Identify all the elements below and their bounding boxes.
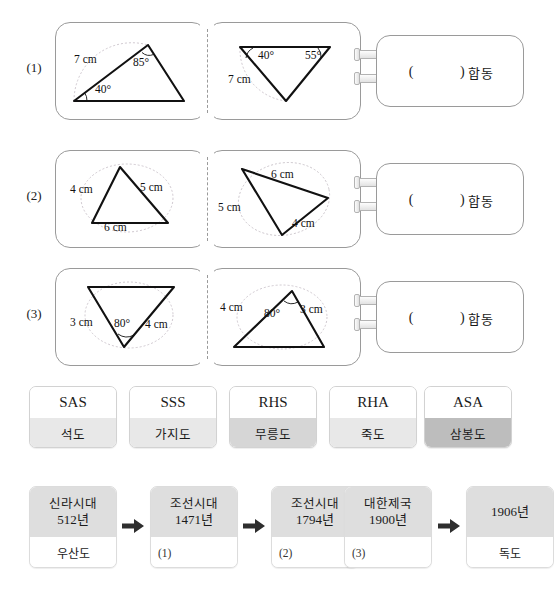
term-card-sas[interactable]: SAS 석도 <box>29 386 117 448</box>
fig2r-label-1: 5 cm <box>218 201 241 213</box>
timeline-year-1: 512년 <box>57 512 89 527</box>
problem-label-3: (3) <box>14 306 54 322</box>
timeline-year-2: 1471년 <box>175 512 213 527</box>
problem-row-1: (1) 7 cm 85° 40° <box>0 22 539 120</box>
answer-text-1: ( ) 합동 <box>377 36 525 108</box>
answer-paren-close-1: ) <box>460 64 465 80</box>
term-name-asa: 삼봉도 <box>425 418 511 448</box>
term-name-sas: 석도 <box>30 418 116 448</box>
fig2l-label-0: 4 cm <box>70 183 93 195</box>
answer-word-1: 합동 <box>468 63 493 82</box>
clasp-cap-bottom-left <box>354 200 360 213</box>
timeline-year-4: 1900년 <box>369 512 407 527</box>
term-code-rha: RHA <box>330 387 416 418</box>
fig2l-label-2: 6 cm <box>104 221 127 233</box>
fig3r-label-1: 80° <box>264 307 280 319</box>
timeline-header-4: 대한제국 1900년 <box>345 487 431 537</box>
term-name-sss: 가지도 <box>130 418 216 448</box>
figure-panel-right-1: 40° 55° 7 cm <box>207 22 361 120</box>
term-card-rhs[interactable]: RHS 무릉도 <box>229 386 317 448</box>
figure-panel-right-3: 4 cm 80° 3 cm <box>207 268 361 366</box>
timeline-era-2: 조선시대 <box>170 497 218 512</box>
timeline-card-2[interactable]: 조선시대 1471년 (1) <box>150 486 238 568</box>
answer-word-2: 합동 <box>468 191 493 210</box>
timeline-era-3: 조선시대 <box>291 497 339 512</box>
term-code-rhs: RHS <box>230 387 316 418</box>
fig2r-label-2: 4 cm <box>292 217 315 229</box>
fig2l-label-1: 5 cm <box>140 181 163 193</box>
timeline-card-5[interactable]: 1906년 독도 <box>466 486 554 568</box>
fig3l-label-1: 80° <box>114 317 130 329</box>
timeline-header-2: 조선시대 1471년 <box>151 487 237 537</box>
answer-paren-close-3: ) <box>460 310 465 326</box>
figure-panel-left-2: 4 cm 5 cm 6 cm <box>55 150 207 248</box>
timeline-header-5: 1906년 <box>467 487 553 537</box>
answer-text-3: ( ) 합동 <box>377 282 525 354</box>
fig1r-label-2: 7 cm <box>228 73 251 85</box>
term-card-asa[interactable]: ASA 삼봉도 <box>424 386 512 448</box>
term-code-asa: ASA <box>425 387 511 418</box>
fig3l-label-0: 3 cm <box>70 316 93 328</box>
triangle-figure-1-right: 40° 55° 7 cm <box>208 23 360 119</box>
fig3r-label-0: 4 cm <box>220 301 243 313</box>
answer-paren-open-2: ( <box>409 192 414 208</box>
panel-dashed-divider-2 <box>207 157 208 241</box>
problem-label-2: (2) <box>14 188 54 204</box>
fig1l-label-1: 85° <box>133 56 149 68</box>
answer-box-3[interactable]: ( ) 합동 <box>376 281 524 353</box>
figure-panel-right-2: 6 cm 5 cm 4 cm <box>207 150 361 248</box>
timeline-era-1: 신라시대 <box>49 497 97 512</box>
fig1r-label-1: 55° <box>305 49 321 61</box>
fig1r-label-0: 40° <box>258 49 274 61</box>
problem-row-3: (3) 3 cm 80° 4 cm <box>0 268 539 366</box>
answer-paren-open-3: ( <box>409 310 414 326</box>
figure-panel-pair-1: 7 cm 85° 40° 40° 55° 7 cm <box>55 22 361 120</box>
fig2r-label-0: 6 cm <box>271 168 294 180</box>
panel-dashed-divider-1 <box>207 29 208 113</box>
term-code-sas: SAS <box>30 387 116 418</box>
term-name-rhs: 무릉도 <box>230 418 316 448</box>
figure-panel-left-1: 7 cm 85° 40° <box>55 22 207 120</box>
clasp-cap-bottom-left <box>354 72 360 85</box>
arrow-right-icon-2 <box>242 516 266 536</box>
timeline-era-4: 대한제국 <box>364 497 412 512</box>
figure-panel-left-3: 3 cm 80° 4 cm <box>55 268 207 366</box>
panel-dashed-divider-3 <box>207 275 208 359</box>
problem-row-2: (2) 4 cm 5 cm 6 cm <box>0 150 539 248</box>
history-timeline: 신라시대 512년 우산도 조선시대 1471년 (1) 조선시대 1794년 … <box>0 486 539 572</box>
answer-box-1[interactable]: ( ) 합동 <box>376 35 524 107</box>
triangle-figure-3-right: 4 cm 80° 3 cm <box>208 269 360 365</box>
triangle-figure-2-right: 6 cm 5 cm 4 cm <box>208 151 360 247</box>
clasp-cap-top-left <box>354 176 360 189</box>
term-code-sss: SSS <box>130 387 216 418</box>
timeline-caption-1: 우산도 <box>30 537 116 568</box>
arrow-right-icon-1 <box>121 516 145 536</box>
timeline-card-1[interactable]: 신라시대 512년 우산도 <box>29 486 117 568</box>
term-name-rha: 죽도 <box>330 418 416 448</box>
fig3l-label-2: 4 cm <box>145 318 168 330</box>
term-card-sss[interactable]: SSS 가지도 <box>129 386 217 448</box>
timeline-card-4[interactable]: 대한제국 1900년 (3) <box>344 486 432 568</box>
answer-paren-open-1: ( <box>409 64 414 80</box>
clasp-cap-bottom-left <box>354 318 360 331</box>
term-card-rha[interactable]: RHA 죽도 <box>329 386 417 448</box>
answer-word-3: 합동 <box>468 309 493 328</box>
answer-text-2: ( ) 합동 <box>377 164 525 236</box>
fig3r-label-2: 3 cm <box>300 303 323 315</box>
figure-panel-pair-3: 3 cm 80° 4 cm 4 cm 80° 3 cm <box>55 268 361 366</box>
fig1l-label-0: 7 cm <box>74 53 97 65</box>
timeline-caption-4: (3) <box>345 537 431 568</box>
answer-box-2[interactable]: ( ) 합동 <box>376 163 524 235</box>
timeline-caption-5: 독도 <box>467 537 553 568</box>
triangle-figure-1-left: 7 cm 85° 40° <box>56 23 206 119</box>
timeline-header-1: 신라시대 512년 <box>30 487 116 537</box>
clasp-cap-top-left <box>354 48 360 61</box>
triangle-figure-3-left: 3 cm 80° 4 cm <box>56 269 206 365</box>
answer-paren-close-2: ) <box>460 192 465 208</box>
fig1l-label-2: 40° <box>95 83 111 95</box>
triangle-figure-2-left: 4 cm 5 cm 6 cm <box>56 151 206 247</box>
timeline-year-5: 1906년 <box>491 504 529 519</box>
timeline-year-3: 1794년 <box>296 512 334 527</box>
congruence-term-row: SAS 석도 SSS 가지도 RHS 무릉도 RHA 죽도 ASA 삼봉도 <box>0 386 539 460</box>
